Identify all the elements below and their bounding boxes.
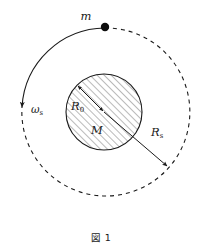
figure-caption: 図 1	[0, 233, 202, 243]
label-orbit-radius: Rs	[150, 125, 164, 140]
orbit-diagram: m ωs R0 M Rs	[0, 0, 202, 250]
label-angular-velocity: ωs	[31, 103, 44, 117]
label-orbiting-mass: m	[81, 9, 92, 23]
label-central-mass: M	[90, 123, 104, 137]
orbiting-mass-dot	[101, 23, 109, 31]
figure-container: m ωs R0 M Rs 図 1	[0, 0, 202, 250]
